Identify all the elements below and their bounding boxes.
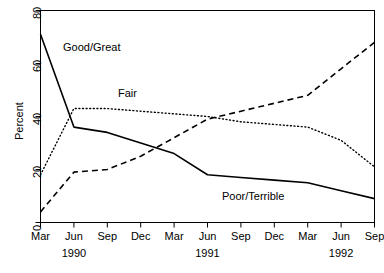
x-tick-label: Mar [298, 231, 317, 242]
series-line-fair [41, 109, 375, 175]
y-tick-label: 80 [32, 6, 43, 18]
x-tick-label: Jun [65, 231, 83, 242]
x-tick-label: Dec [265, 231, 285, 242]
x-tick-label: Mar [31, 231, 50, 242]
y-tick-label: 60 [32, 59, 43, 71]
x-tick-label: Mar [165, 231, 184, 242]
y-axis-title: Percent [14, 102, 25, 140]
y-tick-label: 20 [32, 165, 43, 177]
x-axis-ticks [41, 223, 375, 228]
series-label-fair: Fair [118, 88, 137, 99]
x-tick-label: Sep [365, 231, 384, 242]
x-axis-year-label: 1992 [329, 248, 353, 259]
x-tick-label: Jun [332, 231, 350, 242]
series-lines [41, 34, 375, 212]
x-axis-year-label: 1990 [62, 248, 86, 259]
x-tick-label: Dec [131, 231, 151, 242]
x-tick-label: Sep [231, 231, 251, 242]
series-label-good-great: Good/Great [63, 42, 120, 53]
x-tick-label: Sep [98, 231, 118, 242]
x-axis-year-label: 1991 [195, 248, 219, 259]
x-tick-label: Jun [199, 231, 217, 242]
series-label-poor-terrible: Poor/Terrible [222, 191, 284, 202]
y-tick-label: 40 [32, 112, 43, 124]
